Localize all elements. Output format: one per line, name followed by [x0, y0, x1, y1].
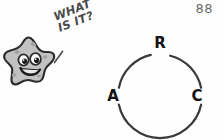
arc-label-c: C	[190, 89, 204, 104]
page-number: 88	[195, 1, 213, 16]
speech-pointer-line	[53, 50, 65, 64]
worksheet-page: 88	[0, 0, 223, 140]
arc-segment-a-to-r	[119, 55, 151, 88]
arc-label-a: A	[106, 89, 120, 104]
arc-diagram: A R C	[103, 18, 223, 140]
arc-segment-c-to-a	[119, 105, 201, 138]
arc-label-r: R	[153, 36, 167, 51]
smiling-star-icon	[1, 35, 57, 91]
arc-segment-r-to-c	[170, 56, 201, 88]
